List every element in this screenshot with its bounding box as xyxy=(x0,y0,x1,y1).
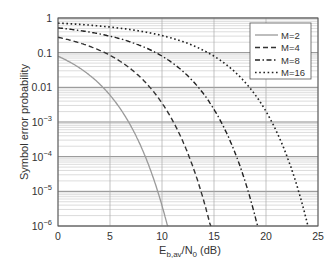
legend-label: M=4 xyxy=(281,42,300,53)
y-tick-label: 10−5 xyxy=(32,183,52,197)
x-tick-label: 10 xyxy=(156,230,168,242)
legend-label: M=16 xyxy=(281,67,305,78)
y-tick-label: 10−3 xyxy=(32,114,52,128)
legend-label: M=2 xyxy=(281,30,300,41)
y-tick-label: 0.01 xyxy=(32,81,53,93)
y-tick-label: 0.1 xyxy=(37,47,52,59)
legend-label: M=8 xyxy=(281,55,300,66)
chart: 10.10.0110−310−410−510−6 0510152025 Symb… xyxy=(0,0,336,272)
y-tick-labels: 10.10.0110−310−410−510−6 xyxy=(32,12,53,232)
x-tick-label: 5 xyxy=(107,230,113,242)
y-tick-label: 10−4 xyxy=(32,149,52,163)
y-tick-label: 1 xyxy=(46,12,52,24)
y-axis-label: Symbol error probability xyxy=(18,63,30,180)
y-tick-label: 10−6 xyxy=(32,218,52,232)
x-tick-labels: 0510152025 xyxy=(55,230,324,242)
x-axis-label: Eb,av/N0 (dB) xyxy=(159,244,221,259)
x-tick-label: 25 xyxy=(312,230,324,242)
x-tick-label: 0 xyxy=(55,230,61,242)
x-tick-label: 15 xyxy=(208,230,220,242)
x-tick-label: 20 xyxy=(260,230,272,242)
legend: M=2M=4M=8M=16 xyxy=(250,23,311,79)
